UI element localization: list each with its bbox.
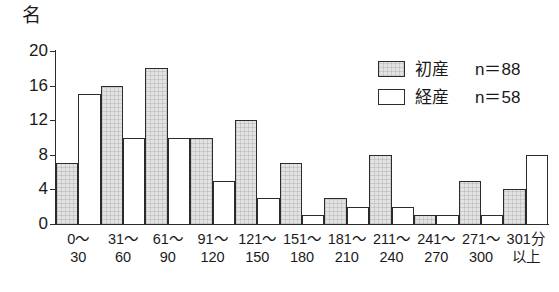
bar (56, 163, 78, 224)
bar-group (101, 51, 146, 224)
y-axis-tick (50, 224, 56, 225)
x-axis-category-line1: 151～ (280, 230, 325, 248)
bar-group (280, 51, 325, 224)
bar-group (324, 51, 369, 224)
bar (392, 207, 414, 224)
bar (459, 181, 481, 224)
bar (168, 138, 190, 225)
x-axis-category-line2: 90 (145, 248, 190, 266)
y-axis-tick-value: 12 (4, 111, 48, 128)
legend-item: 経産n＝58 (378, 83, 520, 111)
x-axis-category-label: 211～240 (369, 230, 414, 266)
bar (257, 198, 279, 224)
x-axis-category-line1: 91～ (190, 230, 235, 248)
x-axis-category-line1: 241～ (414, 230, 459, 248)
bar (302, 215, 324, 224)
bar (145, 68, 167, 224)
x-axis-category-line2: 以上 (503, 248, 548, 266)
legend-sample-size: n＝88 (475, 61, 520, 78)
bar (280, 163, 302, 224)
y-axis-tick-value: 8 (4, 146, 48, 163)
bar (324, 198, 346, 224)
x-axis-category-label: 151～180 (280, 230, 325, 266)
legend-series-name: 経産 (415, 89, 459, 106)
bar-group (235, 51, 280, 224)
bar (347, 207, 369, 224)
x-axis-category-line2: 150 (235, 248, 280, 266)
bar (369, 155, 391, 224)
y-axis-tick-value: 16 (4, 77, 48, 94)
bar (101, 86, 123, 224)
x-axis-category-line2: 240 (369, 248, 414, 266)
x-axis-category-label: 121～150 (235, 230, 280, 266)
x-axis-labels: 0～3031～6061～9091～120121～150151～180181～21… (56, 230, 548, 266)
bar (123, 138, 145, 225)
x-axis-category-line1: 211～ (369, 230, 414, 248)
x-axis-category-line1: 0～ (56, 230, 101, 248)
bar (481, 215, 503, 224)
legend-item: 初産n＝88 (378, 55, 520, 83)
x-axis-category-line2: 120 (190, 248, 235, 266)
legend-swatch (378, 89, 405, 105)
bar-group (145, 51, 190, 224)
legend-sample-size: n＝58 (475, 89, 520, 106)
x-axis-category-line1: 271～ (459, 230, 504, 248)
y-axis-tick-value: 0 (4, 215, 48, 232)
x-axis-category-line2: 210 (324, 248, 369, 266)
bar (503, 189, 525, 224)
x-axis-category-line2: 180 (280, 248, 325, 266)
bar (526, 155, 548, 224)
legend: 初産n＝88経産n＝58 (378, 55, 520, 111)
x-axis-category-line2: 30 (56, 248, 101, 266)
y-axis-unit-label: 名 (22, 6, 41, 25)
bar-group (190, 51, 235, 224)
bar (414, 215, 436, 224)
x-axis-category-line2: 270 (414, 248, 459, 266)
x-axis-category-label: 61～90 (145, 230, 190, 266)
x-axis-category-label: 31～60 (101, 230, 146, 266)
bar-chart: 名 201612840 0～3031～6061～9091～120121～1501… (0, 0, 559, 292)
bar-group (56, 51, 101, 224)
bar (213, 181, 235, 224)
x-axis-category-label: 241～270 (414, 230, 459, 266)
x-axis-category-line2: 300 (459, 248, 504, 266)
y-axis-tick-value: 4 (4, 180, 48, 197)
bar (190, 138, 212, 225)
x-axis-category-line1: 31～ (101, 230, 146, 248)
x-axis-category-label: 301分以上 (503, 230, 548, 266)
bar (235, 120, 257, 224)
x-axis-category-line2: 60 (101, 248, 146, 266)
x-axis-category-label: 181～210 (324, 230, 369, 266)
x-axis-line (55, 224, 549, 225)
x-axis-category-label: 271～300 (459, 230, 504, 266)
legend-swatch (378, 61, 405, 77)
bar (436, 215, 458, 224)
x-axis-category-line1: 121～ (235, 230, 280, 248)
x-axis-category-line1: 301分 (503, 230, 548, 248)
legend-series-name: 初産 (415, 61, 459, 78)
y-axis-tick-value: 20 (4, 42, 48, 59)
x-axis-category-label: 91～120 (190, 230, 235, 266)
x-axis-category-line1: 181～ (324, 230, 369, 248)
bar (78, 94, 100, 224)
x-axis-category-line1: 61～ (145, 230, 190, 248)
x-axis-category-label: 0～30 (56, 230, 101, 266)
